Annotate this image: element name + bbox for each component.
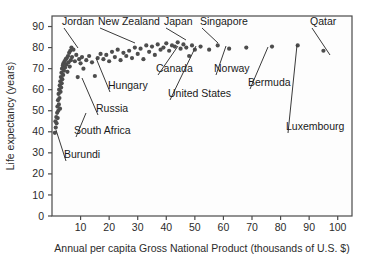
data-point [54,121,58,125]
y-tick-label: 20 [32,167,44,179]
data-point [110,50,114,54]
data-point [127,49,131,53]
y-tick-label: 80 [32,41,44,53]
data-point [107,59,111,63]
data-point [227,47,231,51]
annotation-label: Russia [96,102,128,114]
data-point [56,116,60,120]
y-tick-label: 40 [32,125,44,137]
data-point [153,53,157,57]
data-point [104,53,108,57]
data-point [60,77,64,81]
y-tick-label: 10 [32,189,44,201]
y-tick-label: 70 [32,62,44,74]
data-point [136,52,140,56]
data-point [124,54,128,58]
x-tick-label: 20 [103,221,115,233]
x-tick-label: 70 [246,221,258,233]
data-point [156,42,160,46]
data-point [144,43,148,47]
x-tick-label: 10 [75,221,87,233]
data-point [133,45,137,49]
data-point [138,47,142,51]
data-point [68,64,72,68]
data-point [184,45,188,49]
x-tick-label: 50 [189,221,201,233]
annotation-label: Singapore [200,15,248,27]
annotation-label: Canada [156,62,193,74]
x-axis-title: Annual per capita Gross National Product… [54,242,349,254]
data-point [181,42,185,46]
data-point [59,85,63,89]
data-point [98,52,102,56]
annotation-label: Luxembourg [286,120,345,132]
x-tick-label: 30 [132,221,144,233]
data-point [164,41,168,45]
data-point [118,58,122,62]
data-point [78,61,82,65]
x-tick-label: 80 [275,221,287,233]
y-tick-label: 60 [32,83,44,95]
annotation-label: South Africa [74,124,131,136]
data-point [216,43,220,47]
x-tick-label: 40 [160,221,172,233]
y-tick-label: 50 [32,104,44,116]
data-point [84,58,88,62]
data-point [141,57,145,61]
data-point [90,60,94,64]
data-point [76,75,80,79]
chart-canvas: 1020304050607080901000102030405060708090… [0,0,368,262]
data-point [87,54,91,58]
data-point [81,67,85,71]
annotation-label: New Zealand [98,15,160,27]
annotation-label: Burundi [64,148,100,160]
x-tick-label: 100 [329,221,347,233]
data-point [65,70,69,74]
data-point [101,57,105,61]
annotation-label: Qatar [310,15,337,27]
data-point [113,55,117,59]
data-point [161,45,165,49]
annotation-label: Jordan [62,15,94,27]
x-tick-label: 90 [303,221,315,233]
data-point [60,81,64,85]
data-point [190,43,194,47]
data-point [296,43,300,47]
annotation-label: Norway [214,62,250,74]
data-point [167,49,171,53]
data-point [176,40,180,44]
data-point [57,96,61,100]
data-point [116,48,120,52]
scatter-chart: 1020304050607080901000102030405060708090… [0,0,368,262]
data-point [58,107,62,111]
y-tick-label: 90 [32,20,44,32]
data-point [121,51,125,55]
data-point [58,90,62,94]
data-point [178,47,182,51]
data-point [73,59,77,63]
data-point [70,55,74,59]
data-point [207,48,211,52]
data-point [74,53,78,57]
y-tick-label: 0 [38,210,44,222]
annotation-label: Bermuda [248,76,291,88]
data-point [321,49,325,53]
y-tick-label: 30 [32,146,44,158]
data-point [61,73,65,77]
data-point [93,74,97,78]
data-point [150,44,154,48]
annotation-label: Hungary [108,79,148,91]
data-point [198,44,202,48]
data-point [71,48,75,52]
data-point [244,45,248,49]
y-axis-title: Life expectancy (years) [4,62,16,171]
data-point [130,56,134,60]
data-point [270,44,274,48]
x-tick-label: 60 [218,221,230,233]
data-point [80,55,84,59]
data-point [147,50,151,54]
annotation-label: United States [168,87,231,99]
data-point [57,102,61,106]
annotation-label: Japan [164,15,193,27]
data-point [54,125,58,129]
